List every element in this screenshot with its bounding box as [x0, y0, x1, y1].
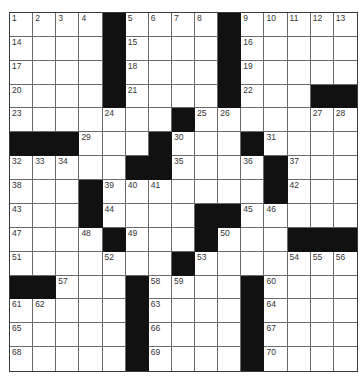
grid-cell[interactable]: 55	[311, 252, 334, 276]
grid-cell[interactable]	[264, 61, 287, 85]
grid-cell[interactable]	[195, 156, 218, 180]
grid-cell[interactable]	[56, 85, 79, 109]
grid-cell[interactable]	[79, 347, 102, 371]
grid-cell[interactable]	[56, 299, 79, 323]
grid-cell[interactable]	[264, 228, 287, 252]
grid-cell[interactable]: 28	[334, 108, 357, 132]
grid-cell[interactable]	[149, 204, 172, 228]
grid-cell[interactable]: 18	[126, 61, 149, 85]
grid-cell[interactable]: 57	[56, 276, 79, 300]
grid-cell[interactable]	[241, 180, 264, 204]
grid-cell[interactable]	[195, 180, 218, 204]
grid-cell[interactable]	[172, 204, 195, 228]
grid-cell[interactable]	[218, 347, 241, 371]
grid-cell[interactable]	[126, 204, 149, 228]
grid-cell[interactable]	[311, 204, 334, 228]
grid-cell[interactable]	[33, 323, 56, 347]
grid-cell[interactable]	[264, 252, 287, 276]
grid-cell[interactable]	[149, 252, 172, 276]
grid-cell[interactable]: 64	[264, 299, 287, 323]
grid-cell[interactable]	[79, 299, 102, 323]
grid-cell[interactable]	[79, 276, 102, 300]
grid-cell[interactable]	[79, 156, 102, 180]
grid-cell[interactable]	[195, 347, 218, 371]
grid-cell[interactable]: 35	[172, 156, 195, 180]
grid-cell[interactable]	[79, 252, 102, 276]
grid-cell[interactable]	[126, 252, 149, 276]
grid-cell[interactable]: 68	[10, 347, 33, 371]
grid-cell[interactable]	[195, 132, 218, 156]
grid-cell[interactable]	[149, 37, 172, 61]
grid-cell[interactable]: 5	[126, 13, 149, 37]
grid-cell[interactable]: 2	[33, 13, 56, 37]
grid-cell[interactable]	[103, 132, 126, 156]
grid-cell[interactable]: 16	[241, 37, 264, 61]
grid-cell[interactable]: 63	[149, 299, 172, 323]
grid-cell[interactable]	[126, 108, 149, 132]
grid-cell[interactable]: 54	[288, 252, 311, 276]
grid-cell[interactable]	[334, 37, 357, 61]
grid-cell[interactable]: 43	[10, 204, 33, 228]
grid-cell[interactable]: 26	[218, 108, 241, 132]
grid-cell[interactable]: 12	[311, 13, 334, 37]
grid-cell[interactable]: 58	[149, 276, 172, 300]
grid-cell[interactable]	[56, 37, 79, 61]
grid-cell[interactable]: 36	[241, 156, 264, 180]
grid-cell[interactable]: 44	[103, 204, 126, 228]
grid-cell[interactable]	[79, 323, 102, 347]
grid-cell[interactable]	[311, 132, 334, 156]
grid-cell[interactable]	[334, 132, 357, 156]
grid-cell[interactable]	[311, 299, 334, 323]
grid-cell[interactable]	[33, 204, 56, 228]
grid-cell[interactable]	[334, 156, 357, 180]
grid-cell[interactable]	[56, 323, 79, 347]
grid-cell[interactable]	[218, 180, 241, 204]
grid-cell[interactable]	[149, 228, 172, 252]
grid-cell[interactable]	[56, 347, 79, 371]
grid-cell[interactable]: 69	[149, 347, 172, 371]
grid-cell[interactable]	[241, 228, 264, 252]
grid-cell[interactable]: 34	[56, 156, 79, 180]
grid-cell[interactable]	[195, 61, 218, 85]
grid-cell[interactable]	[103, 156, 126, 180]
grid-cell[interactable]: 25	[195, 108, 218, 132]
grid-cell[interactable]	[334, 276, 357, 300]
grid-cell[interactable]: 6	[149, 13, 172, 37]
grid-cell[interactable]	[79, 108, 102, 132]
grid-cell[interactable]	[103, 276, 126, 300]
grid-cell[interactable]: 1	[10, 13, 33, 37]
grid-cell[interactable]: 39	[103, 180, 126, 204]
grid-cell[interactable]	[288, 347, 311, 371]
grid-cell[interactable]: 33	[33, 156, 56, 180]
grid-cell[interactable]: 31	[264, 132, 287, 156]
grid-cell[interactable]: 4	[79, 13, 102, 37]
grid-cell[interactable]: 8	[195, 13, 218, 37]
grid-cell[interactable]: 20	[10, 85, 33, 109]
grid-cell[interactable]	[288, 299, 311, 323]
grid-cell[interactable]	[172, 347, 195, 371]
grid-cell[interactable]: 67	[264, 323, 287, 347]
grid-cell[interactable]	[311, 61, 334, 85]
grid-cell[interactable]	[126, 132, 149, 156]
grid-cell[interactable]	[79, 61, 102, 85]
grid-cell[interactable]	[311, 276, 334, 300]
grid-cell[interactable]: 60	[264, 276, 287, 300]
grid-cell[interactable]	[33, 180, 56, 204]
grid-cell[interactable]	[241, 252, 264, 276]
grid-cell[interactable]	[172, 299, 195, 323]
grid-cell[interactable]	[56, 180, 79, 204]
grid-cell[interactable]	[311, 37, 334, 61]
grid-cell[interactable]	[195, 37, 218, 61]
grid-cell[interactable]: 56	[334, 252, 357, 276]
grid-cell[interactable]: 7	[172, 13, 195, 37]
grid-cell[interactable]	[218, 156, 241, 180]
grid-cell[interactable]	[334, 347, 357, 371]
grid-cell[interactable]: 62	[33, 299, 56, 323]
grid-cell[interactable]	[288, 276, 311, 300]
grid-cell[interactable]	[218, 252, 241, 276]
grid-cell[interactable]: 14	[10, 37, 33, 61]
grid-cell[interactable]	[172, 61, 195, 85]
grid-cell[interactable]	[195, 299, 218, 323]
grid-cell[interactable]: 48	[79, 228, 102, 252]
grid-cell[interactable]: 37	[288, 156, 311, 180]
